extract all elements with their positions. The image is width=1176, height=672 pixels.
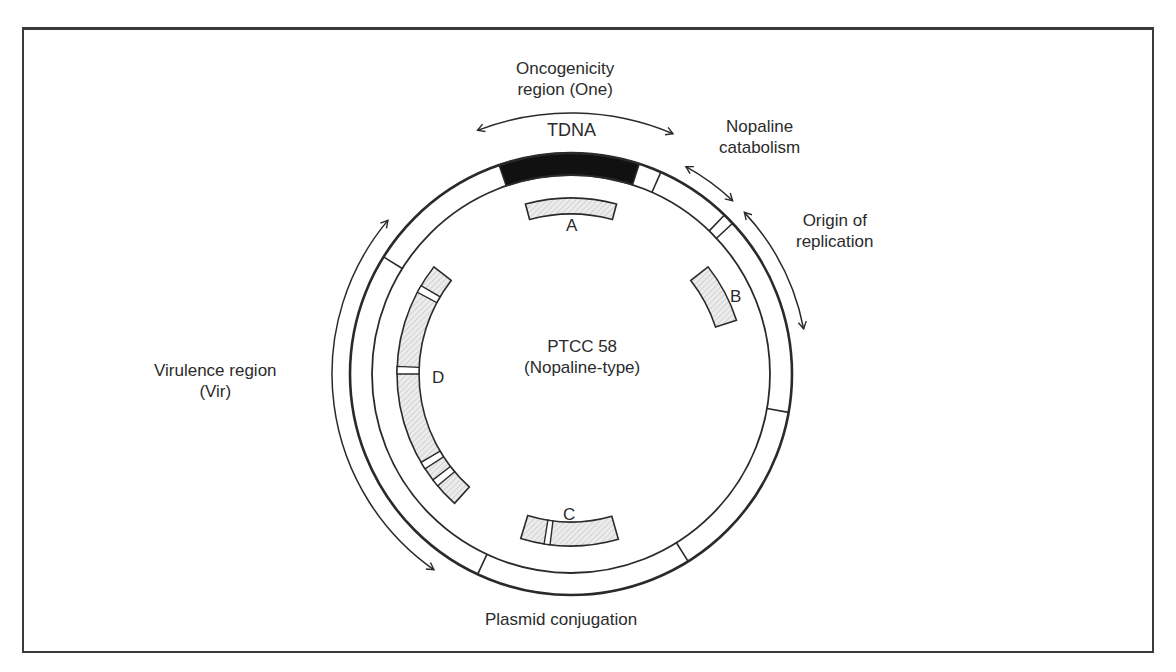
- ring-divider: [717, 223, 733, 238]
- nopaline-catabolism-arrow: [686, 167, 733, 201]
- fragment-label-a: A: [566, 216, 577, 236]
- ring-divider: [767, 409, 789, 413]
- ring-divider: [652, 172, 661, 192]
- ring-divider: [384, 257, 403, 269]
- fragment-label-c: C: [563, 505, 575, 525]
- origin-of-replication-arrow: [744, 212, 803, 328]
- ring-divider: [478, 554, 487, 574]
- label-oncogenicity-region: Oncogenicityregion (One): [516, 58, 614, 100]
- label-plasmid-name: PTCC 58(Nopaline-type): [524, 336, 640, 378]
- fragment-label-d: D: [432, 368, 444, 388]
- fragment-label-b: B: [730, 287, 741, 307]
- label-virulence-region: Virulence region(Vir): [154, 360, 277, 402]
- ring-divider: [676, 543, 688, 562]
- label-plasmid-conjugation: Plasmid conjugation: [485, 609, 637, 630]
- label-origin-of-replication: Origin ofreplication: [796, 210, 874, 252]
- fragment-d-gap: [397, 366, 419, 374]
- ring-divider: [709, 215, 724, 231]
- label-nopaline-catabolism: Nopalinecatabolism: [719, 116, 800, 158]
- label-tdna: TDNA: [547, 120, 596, 141]
